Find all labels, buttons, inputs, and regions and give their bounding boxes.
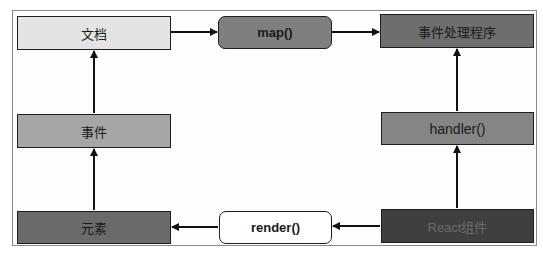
node-render: render()	[219, 211, 332, 244]
node-document-label: 文档	[81, 24, 107, 43]
node-event-handler-label: 事件处理程序	[418, 22, 496, 41]
node-event-handler: 事件处理程序	[380, 14, 534, 48]
node-event-label: 事件	[81, 122, 107, 141]
node-document: 文档	[17, 16, 171, 50]
node-map: map()	[218, 16, 332, 49]
node-event: 事件	[17, 114, 171, 148]
node-element-label: 元素	[81, 218, 107, 237]
node-handler: handler()	[381, 112, 534, 145]
node-react-component-label: React组件	[428, 217, 488, 236]
node-render-label: render()	[251, 220, 300, 235]
node-map-label: map()	[257, 25, 292, 40]
node-element: 元素	[17, 211, 171, 244]
node-handler-label: handler()	[429, 121, 485, 137]
node-react-component: React组件	[381, 209, 534, 243]
